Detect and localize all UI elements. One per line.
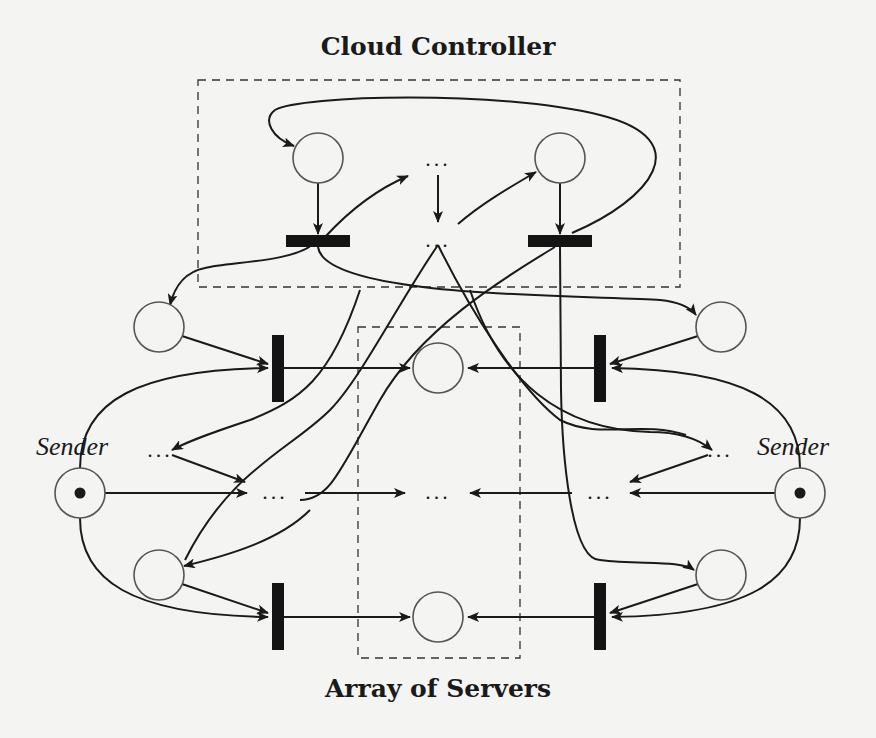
transition-controller-right: [528, 235, 592, 247]
place-left-lower: [134, 550, 184, 600]
ellipsis-left-upper: ...: [147, 437, 173, 463]
place-server-top: [413, 343, 463, 393]
sender-left-label: Sender: [36, 432, 108, 462]
ellipsis-center: ...: [425, 479, 451, 505]
token-sender-right: [795, 488, 806, 499]
arc-left-dots-to-mid: [172, 455, 245, 482]
arc-to-left-lower: [184, 510, 310, 566]
petri-net-diagram: [0, 0, 876, 738]
arc-dots-to-left-lower: [185, 245, 438, 560]
ellipsis-left-mid: ...: [262, 479, 288, 505]
ellipsis-right-upper: ...: [707, 437, 733, 463]
array-of-servers-title: Array of Servers: [325, 674, 551, 703]
transition-right-upper: [594, 335, 606, 402]
arc-left-lower-to-bar: [182, 584, 268, 613]
ellipsis-controller-mid: ...: [425, 227, 451, 253]
arc-right-lower-to-bar: [610, 584, 698, 613]
arc-left-upper-to-bar: [182, 336, 268, 364]
sender-right-label: Sender: [757, 432, 829, 462]
arc-cl-bar-to-left-upper: [170, 245, 312, 305]
arc-to-cr-place: [458, 172, 536, 224]
ellipsis-right-mid: ...: [587, 479, 613, 505]
transition-left-upper: [272, 335, 284, 402]
token-sender-left: [75, 488, 86, 499]
place-right-lower: [696, 550, 746, 600]
arc-right-upper-to-bar: [610, 336, 698, 364]
ellipsis-controller-top: ...: [425, 146, 451, 172]
arc-right-dots-to-mid: [630, 455, 708, 482]
place-left-upper: [134, 302, 184, 352]
place-controller-right: [535, 133, 585, 183]
transition-right-lower: [594, 583, 606, 650]
arc-cr-bar-down: [560, 247, 694, 570]
transition-controller-left: [286, 235, 350, 247]
place-server-bottom: [413, 592, 463, 642]
arc-cl-bar-to-dots: [326, 176, 408, 236]
arc-to-right-dots: [470, 290, 712, 450]
transition-left-lower: [272, 583, 284, 650]
arc-to-left-dots: [172, 290, 360, 450]
place-controller-left: [293, 133, 343, 183]
arc-cl-bar-to-right-upper: [318, 247, 696, 315]
cloud-controller-title: Cloud Controller: [321, 32, 556, 61]
place-right-upper: [696, 302, 746, 352]
